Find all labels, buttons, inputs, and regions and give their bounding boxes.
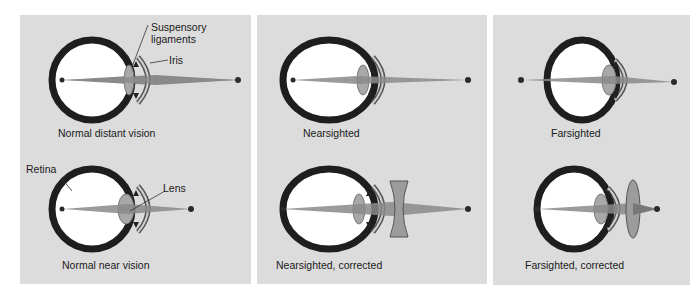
eye-normal-distant	[52, 25, 241, 120]
eye-farsighted	[518, 40, 677, 120]
caption-farsighted: Farsighted	[551, 127, 601, 139]
caption-nearsighted: Nearsighted	[303, 127, 360, 139]
eye-nearsighted-corrected	[281, 169, 472, 249]
nearsighted-diagram	[257, 15, 487, 284]
label-retina: Retina	[26, 163, 56, 175]
label-lens: Lens	[163, 182, 186, 194]
label-suspensory-ligaments: Suspensory ligaments	[151, 21, 206, 45]
panel-farsighted: Farsighted Farsighted, corrected	[493, 15, 690, 285]
panel-normal-vision: Suspensory ligaments Iris Normal distant…	[20, 15, 251, 284]
normal-vision-diagram	[20, 15, 251, 284]
eye-farsighted-corrected	[535, 169, 661, 249]
label-line: Suspensory	[151, 21, 206, 33]
farsighted-diagram	[493, 15, 690, 285]
caption-normal-distant: Normal distant vision	[58, 127, 155, 139]
eye-normal-near	[52, 169, 194, 249]
eye-nearsighted	[283, 40, 471, 120]
label-iris: Iris	[169, 54, 183, 66]
panel-nearsighted: Nearsighted Nearsighted, corrected	[257, 15, 487, 284]
caption-nearsighted-corrected: Nearsighted, corrected	[276, 259, 382, 271]
label-line: ligaments	[151, 33, 206, 45]
caption-farsighted-corrected: Farsighted, corrected	[525, 259, 624, 271]
caption-normal-near: Normal near vision	[62, 259, 150, 271]
